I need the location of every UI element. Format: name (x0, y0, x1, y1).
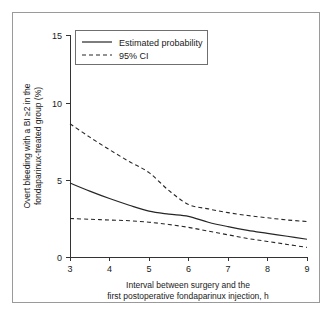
y-axis-title-line1: Overt bleeding with a BI ≥2 in the (22, 83, 32, 208)
line-chart: 0 5 10 15 3 4 5 6 7 8 9 (0, 0, 334, 319)
series-group (70, 124, 307, 248)
legend: Estimated probability 95% CI (75, 30, 207, 64)
y-axis-title: Overt bleeding with a BI ≥2 in the fonda… (22, 83, 43, 208)
x-tick-label: 3 (67, 264, 72, 274)
x-tick-label: 6 (186, 264, 191, 274)
y-axis-ticks: 0 5 10 15 (52, 31, 70, 263)
y-tick-label: 0 (57, 253, 62, 263)
series-line-95ci-upper (70, 124, 307, 222)
x-axis-ticks: 3 4 5 6 7 8 9 (67, 257, 309, 274)
series-line-estimated-probability (70, 183, 307, 239)
x-tick-label: 8 (265, 264, 270, 274)
x-axis-title: Interval between surgery and the first p… (107, 280, 269, 301)
x-tick-label: 5 (146, 264, 151, 274)
y-axis-title-line2: fondaparinux-treated group (%) (33, 87, 43, 205)
legend-label-estimated-probability: Estimated probability (119, 38, 203, 48)
x-tick-label: 9 (304, 264, 309, 274)
x-axis-title-line1: Interval between surgery and the (126, 280, 250, 290)
axes-group (70, 35, 307, 257)
series-line-95ci-lower (70, 219, 307, 248)
legend-label-95ci: 95% CI (119, 51, 149, 61)
x-tick-label: 7 (225, 264, 230, 274)
figure-root: 0 5 10 15 3 4 5 6 7 8 9 (0, 0, 334, 319)
y-tick-label: 5 (57, 176, 62, 186)
y-tick-label: 10 (52, 99, 62, 109)
x-tick-label: 4 (107, 264, 112, 274)
y-tick-label: 15 (52, 31, 62, 41)
x-axis-title-line2: first postoperative fondaparinux injecti… (107, 291, 269, 301)
